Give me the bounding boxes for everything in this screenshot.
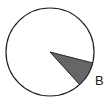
circle-diagram: B <box>0 0 108 109</box>
sector-label-b: B <box>95 73 104 88</box>
